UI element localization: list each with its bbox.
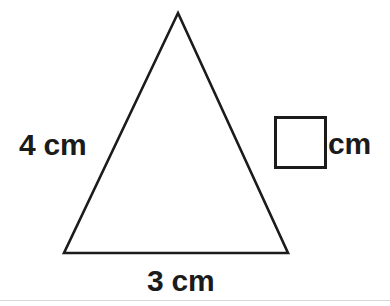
bottom-side-length-label: 3 cm bbox=[147, 266, 215, 296]
worksheet-figure-canvas: 4 cm 3 cm cm bbox=[0, 0, 390, 306]
triangle-outline bbox=[64, 13, 288, 253]
answer-input-box[interactable] bbox=[274, 116, 327, 169]
left-side-length-label: 4 cm bbox=[19, 130, 87, 160]
scan-edge-artifact bbox=[0, 300, 390, 301]
answer-unit-label: cm bbox=[328, 129, 371, 159]
answer-entry-group: cm bbox=[274, 116, 371, 169]
